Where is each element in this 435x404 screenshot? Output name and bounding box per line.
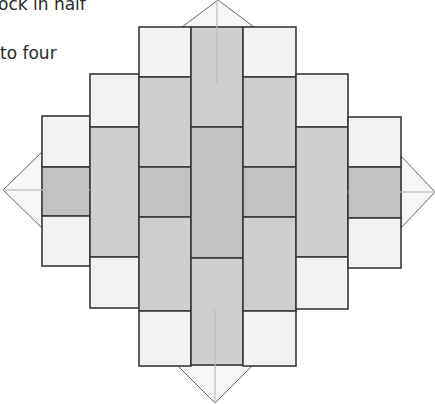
quilt-patch — [243, 167, 296, 217]
quilt-patch — [42, 116, 90, 167]
quilt-patch — [348, 117, 401, 167]
quilt-patch — [90, 74, 139, 127]
quilt-patch — [42, 167, 90, 216]
quilt-patch — [139, 77, 191, 167]
quilt-patch — [243, 217, 296, 311]
quilt-patches — [42, 27, 401, 366]
quilt-patch — [139, 217, 191, 311]
quilt-patch — [90, 257, 139, 308]
quilt-patch — [90, 127, 139, 257]
quilt-patch — [139, 167, 191, 217]
quilt-patch — [191, 258, 243, 365]
quilt-patch — [296, 74, 348, 127]
quilt-patch — [243, 27, 296, 77]
quilt-patch — [139, 27, 191, 77]
quilt-patch — [243, 311, 296, 366]
quilt-patch — [348, 218, 401, 268]
quilt-patch — [139, 311, 191, 366]
quilt-patch — [296, 257, 348, 309]
quilt-diagram — [0, 0, 435, 404]
quilt-patch — [42, 216, 90, 266]
quilt-patch — [296, 127, 348, 257]
quilt-patch — [191, 127, 243, 258]
quilt-patch — [243, 77, 296, 167]
